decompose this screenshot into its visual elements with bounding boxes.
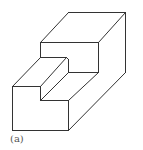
- figure-caption: (a): [10, 133, 24, 145]
- block-edges: [13, 13, 126, 131]
- block-edge: [99, 13, 126, 43]
- block-edge: [41, 58, 67, 87]
- block-edge: [41, 73, 69, 101]
- block-edge: [69, 73, 126, 131]
- block-edge: [13, 58, 41, 87]
- stepped-block-drawing: [0, 0, 143, 150]
- block-edge: [41, 13, 69, 43]
- block-edge: [69, 73, 99, 101]
